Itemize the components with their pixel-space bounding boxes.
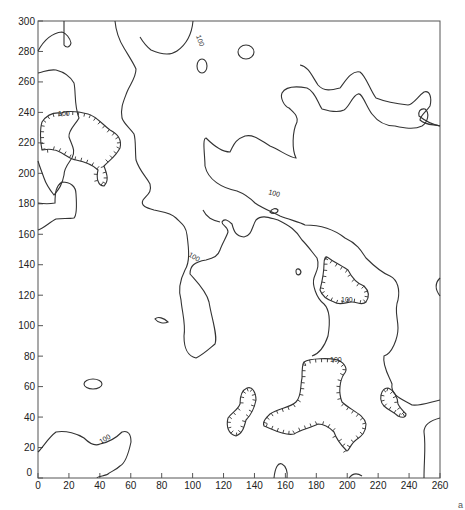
hachure-tick <box>247 388 248 391</box>
hachure-tick <box>78 112 79 115</box>
y-tick-label: 160 <box>18 229 35 240</box>
svg-text:100: 100 <box>341 296 353 303</box>
hachure-tick <box>333 436 336 438</box>
hachure-tick <box>92 163 94 166</box>
hachure-tick <box>394 410 396 413</box>
x-tick-label: 120 <box>215 480 232 491</box>
hachure-tick <box>362 286 365 288</box>
hachure-tick <box>288 407 289 410</box>
hachure-tick <box>103 172 106 173</box>
y-tick-label: 300 <box>18 16 35 27</box>
hachure-tick <box>381 400 384 401</box>
hachure-tick <box>243 391 246 393</box>
hachure-tick <box>277 410 278 413</box>
hachure-tick <box>336 300 337 303</box>
y-tick-label: 180 <box>18 198 35 209</box>
hachure-tick <box>236 433 237 436</box>
hachure-tick <box>360 418 363 420</box>
hachure-tick <box>242 421 245 422</box>
hachure-tick <box>64 152 66 155</box>
svg-text:100: 100 <box>195 34 206 47</box>
x-tick-label: 0 <box>35 480 41 491</box>
hachure-tick <box>102 126 104 129</box>
hachure-tick <box>341 404 343 407</box>
y-tick-label: 100 <box>18 320 35 331</box>
contour-plot: 0204060801001201401601802002202402602803… <box>0 0 465 510</box>
hachure-tick <box>86 160 87 163</box>
hachure-tick <box>322 292 325 294</box>
x-tick-label: 100 <box>184 480 201 491</box>
hachure-tick <box>345 270 347 273</box>
hachure-tick <box>231 431 233 433</box>
hachure-tick <box>310 360 311 363</box>
hachure-tick <box>343 450 346 452</box>
hachure-tick <box>304 426 305 429</box>
hachure-tick <box>252 400 255 401</box>
hachure-tick <box>304 362 306 365</box>
hachure-tick <box>89 115 90 118</box>
hachure-tick <box>364 291 367 292</box>
hachure-tick <box>403 414 405 417</box>
hachure-tick <box>363 300 365 303</box>
hachure-tick <box>114 151 117 153</box>
y-tick-label: 200 <box>18 168 35 179</box>
hachure-tick <box>115 137 118 139</box>
corner-mark: a <box>458 500 463 510</box>
y-tick-label: 120 <box>18 290 35 301</box>
hachure-tick <box>107 129 109 132</box>
hachure-tick <box>69 155 71 158</box>
x-tick-label: 60 <box>125 480 137 491</box>
y-tick-label: 280 <box>18 46 35 57</box>
hachure-tick <box>335 263 337 266</box>
hachure-tick <box>389 407 391 410</box>
hachure-tick <box>264 422 267 423</box>
hachure-tick <box>357 283 359 286</box>
x-axis: 020406080100120140160180200220240260 <box>35 473 449 491</box>
hachure-tick <box>322 282 325 283</box>
x-tick-label: 180 <box>308 480 325 491</box>
hachure-tick <box>397 407 400 409</box>
hachure-tick <box>362 423 365 424</box>
hachure-tick <box>229 417 232 419</box>
hachure-tick <box>84 113 85 116</box>
hachure-tick <box>98 122 100 125</box>
hachure-tick <box>251 405 254 406</box>
y-tick-label: 0 <box>26 467 32 478</box>
hachure-tick <box>340 373 343 375</box>
hachure-tick <box>53 146 54 149</box>
hachure-tick <box>356 414 358 417</box>
svg-text:100: 100 <box>268 188 281 198</box>
hachure-tick <box>347 445 350 447</box>
x-tick-label: 140 <box>246 480 263 491</box>
hachure-tick <box>293 404 295 407</box>
x-tick-label: 160 <box>277 480 294 491</box>
hachure-tick <box>365 296 368 297</box>
hachure-tick <box>356 436 358 439</box>
hachure-tick <box>326 295 328 298</box>
hachure-tick <box>266 424 267 427</box>
hachure-tick <box>321 288 324 289</box>
hachure-tick <box>347 407 349 410</box>
hachure-tick <box>384 404 386 406</box>
y-tick-label: 260 <box>18 76 35 87</box>
hachure-tick <box>103 182 106 184</box>
hachure-tick <box>48 116 50 119</box>
hachure-tick <box>94 180 97 181</box>
y-tick-label: 80 <box>24 351 36 362</box>
y-tick-label: 60 <box>24 381 36 392</box>
hachure-tick <box>246 415 249 417</box>
x-tick-label: 20 <box>63 480 75 491</box>
hachure-tick <box>323 421 324 424</box>
y-tick-label: 140 <box>18 259 35 270</box>
hachure-tick <box>272 426 273 429</box>
x-tick-label: 80 <box>156 480 168 491</box>
x-tick-label: 220 <box>370 480 387 491</box>
hachure-tick <box>298 400 301 402</box>
hachure-tick <box>341 266 343 269</box>
hachure-tick <box>360 432 363 434</box>
hachure-tick <box>333 428 335 431</box>
hachure-tick <box>337 398 340 399</box>
hachure-tick <box>352 410 354 413</box>
hachure-tick <box>110 156 112 158</box>
hachure-tick <box>271 413 273 416</box>
